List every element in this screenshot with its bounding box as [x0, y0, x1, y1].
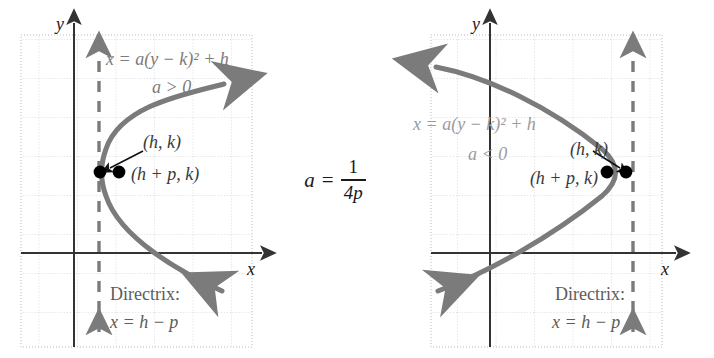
vertex-label: (h, k): [570, 139, 608, 160]
figure-container: x = a(y − k)² + h a > 0 (h, k) (h + p, k…: [0, 0, 714, 358]
vertex-label: (h, k): [143, 132, 181, 153]
condition-label: a < 0: [468, 144, 507, 164]
grid-background: [431, 35, 662, 347]
parabola-panel-opens-right: x = a(y − k)² + h a > 0 (h, k) (h + p, k…: [0, 0, 300, 358]
directrix-title: Directrix:: [110, 284, 180, 304]
x-axis-label: x: [246, 259, 255, 279]
focal-relation-formula: a = 1 4p: [280, 140, 390, 220]
formula-equals: =: [322, 168, 334, 193]
formula-denominator: 4p: [341, 183, 366, 203]
denominator-coefficient: 4: [344, 182, 354, 203]
formula-fraction: 1 4p: [341, 157, 366, 202]
right-diagram-svg: x = a(y − k)² + h a < 0 (h, k) (h + p, k…: [380, 0, 714, 358]
y-axis-label: y: [54, 14, 64, 34]
left-diagram-svg: x = a(y − k)² + h a > 0 (h, k) (h + p, k…: [0, 0, 300, 358]
focus-point: [113, 166, 126, 179]
denominator-variable: p: [353, 182, 363, 203]
focus-label: (h + p, k): [530, 168, 598, 189]
directrix-title: Directrix:: [555, 284, 625, 304]
formula-a-symbol: a: [304, 168, 315, 193]
parabola-panel-opens-left: x = a(y − k)² + h a < 0 (h, k) (h + p, k…: [380, 0, 714, 358]
vertex-point: [620, 166, 633, 179]
formula-numerator: 1: [345, 157, 361, 177]
directrix-equation: x = h − p: [109, 312, 178, 332]
directrix-equation: x = h − p: [551, 312, 620, 332]
focus-label: (h + p, k): [131, 164, 199, 185]
equation-label: x = a(y − k)² + h: [105, 49, 229, 70]
fraction-bar: [341, 179, 366, 181]
x-axis-label: x: [660, 259, 669, 279]
vertex-point: [94, 166, 107, 179]
y-axis-label: y: [470, 14, 480, 34]
condition-label: a > 0: [152, 77, 191, 97]
equation-label: x = a(y − k)² + h: [412, 114, 536, 135]
focus-point: [601, 166, 614, 179]
